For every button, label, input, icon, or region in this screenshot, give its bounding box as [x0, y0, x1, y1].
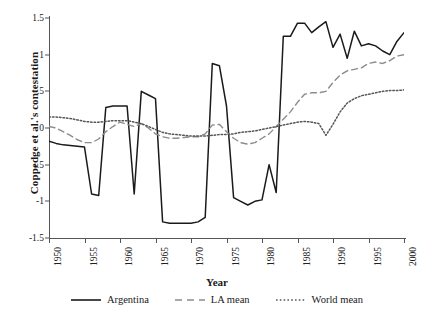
legend-label-world-mean: World mean — [312, 294, 363, 305]
y-tick-mark — [45, 128, 49, 129]
x-tick-label: 1960 — [124, 247, 134, 266]
x-tick-label: 1980 — [266, 247, 276, 266]
x-tick-mark — [298, 239, 299, 243]
x-axis-title: Year — [0, 276, 434, 288]
x-tick-mark — [49, 239, 50, 243]
x-tick-label: 1975 — [231, 247, 241, 266]
x-tick-mark — [262, 239, 263, 243]
x-tick-label: 2000 — [408, 247, 418, 266]
y-tick-label: 0 — [39, 123, 44, 133]
y-tick-label: 1 — [39, 50, 44, 60]
legend-swatch-dashed — [175, 296, 205, 304]
x-tick-label: 1995 — [373, 247, 383, 266]
legend-item-la-mean: LA mean — [175, 294, 250, 305]
x-tick-mark — [404, 239, 405, 243]
y-tick-label: -.5 — [34, 160, 44, 170]
series-lines — [49, 18, 404, 238]
y-tick-label: -1.5 — [29, 233, 44, 243]
x-tick-mark — [156, 239, 157, 243]
x-tick-mark — [227, 239, 228, 243]
x-tick-mark — [333, 239, 334, 243]
x-tick-label: 1965 — [160, 247, 170, 266]
y-tick-mark — [45, 18, 49, 19]
x-tick-layer: 1950195519601965197019751980198519901995… — [49, 239, 406, 279]
y-tick-mark — [45, 54, 49, 55]
x-tick-mark — [369, 239, 370, 243]
y-tick-mark — [45, 201, 49, 202]
chart-legend: Argentina LA mean World mean — [0, 294, 434, 305]
y-tick-mark — [45, 164, 49, 165]
x-tick-label: 1990 — [337, 247, 347, 266]
x-tick-label: 1970 — [195, 247, 205, 266]
x-tick-label: 1955 — [89, 247, 99, 266]
legend-item-world-mean: World mean — [276, 294, 363, 305]
legend-label-la-mean: LA mean — [211, 294, 250, 305]
legend-swatch-solid — [71, 296, 101, 304]
series-la-mean — [49, 55, 404, 144]
contestation-line-chart: Coppedge et al.'s contestation 1.51.50-.… — [0, 0, 434, 319]
x-tick-mark — [191, 239, 192, 243]
y-tick-label: .5 — [37, 86, 44, 96]
legend-swatch-dotted — [276, 296, 306, 304]
x-tick-label: 1950 — [53, 247, 63, 266]
legend-label-argentina: Argentina — [107, 294, 149, 305]
y-tick-label: 1.5 — [32, 13, 44, 23]
x-tick-mark — [120, 239, 121, 243]
x-tick-mark — [85, 239, 86, 243]
plot-area: 1.51.50-.5-1-1.5 — [49, 18, 404, 238]
y-tick-mark — [45, 91, 49, 92]
x-tick-label: 1985 — [302, 247, 312, 266]
legend-item-argentina: Argentina — [71, 294, 149, 305]
y-tick-label: -1 — [36, 196, 44, 206]
